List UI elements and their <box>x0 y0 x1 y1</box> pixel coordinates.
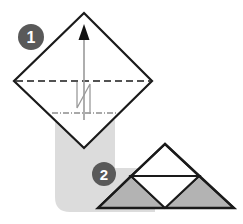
origami-fold-diagram: 1 2 <box>0 0 243 224</box>
step-1-badge[interactable]: 1 <box>18 24 44 50</box>
step-1-badge-label: 1 <box>27 29 36 46</box>
diagram-canvas: 1 2 <box>0 0 243 224</box>
top-sub-triangle <box>131 144 199 176</box>
step-2-badge[interactable]: 2 <box>92 162 116 186</box>
step-2-badge-label: 2 <box>100 166 108 183</box>
